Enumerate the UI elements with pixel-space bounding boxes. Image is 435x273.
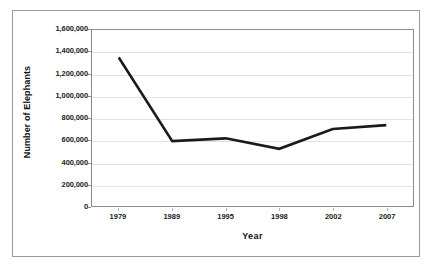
x-axis-tick-labels: 197919891995199820022007	[91, 212, 414, 224]
plot-area	[91, 29, 414, 207]
x-axis-tick-label: 2007	[357, 212, 417, 221]
x-axis-tick-mark	[172, 208, 173, 211]
chart-figure: 0200,000400,000600,000800,0001,000,0001,…	[0, 0, 435, 273]
y-axis-tick-label: 400,000	[32, 158, 88, 167]
y-axis-tick-label: 200,000	[32, 180, 88, 189]
x-axis-tick-mark	[279, 208, 280, 211]
y-axis-tick-label: 0	[32, 202, 88, 211]
x-axis-tick-label: 1989	[142, 212, 202, 221]
x-axis-tick-label: 1995	[196, 212, 256, 221]
x-axis-tick-mark	[387, 208, 388, 211]
y-axis-tick-label: 800,000	[32, 113, 88, 122]
x-axis-tick-mark	[226, 208, 227, 211]
x-axis-tick-mark	[118, 208, 119, 211]
series-line-number-of-elephants	[119, 57, 386, 148]
line-series-svg	[92, 30, 413, 206]
y-axis-tick-label: 1,200,000	[32, 69, 88, 78]
x-axis-tick-label: 1998	[249, 212, 309, 221]
x-axis-title: Year	[91, 231, 414, 241]
y-axis-tick-labels: 0200,000400,000600,000800,0001,000,0001,…	[30, 29, 88, 207]
y-axis-tick-label: 600,000	[32, 135, 88, 144]
y-axis-tick-label: 1,000,000	[32, 91, 88, 100]
y-axis-tick-label: 1,600,000	[32, 24, 88, 33]
x-axis-tick-label: 2002	[303, 212, 363, 221]
x-axis-tick-mark	[333, 208, 334, 211]
y-axis-title: Number of Elephants	[22, 23, 32, 201]
y-axis-tick-label: 1,400,000	[32, 46, 88, 55]
x-axis-tick-label: 1979	[88, 212, 148, 221]
